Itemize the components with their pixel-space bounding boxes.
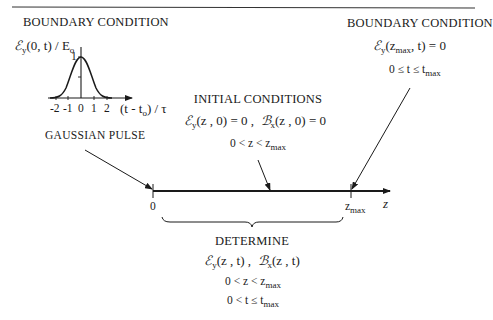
- y-tick-1: 1: [71, 50, 77, 62]
- gaussian-ylabel: ℰy(0, t) / Eo: [14, 38, 74, 54]
- determine-range-z: 0 < z < zmax: [225, 275, 281, 287]
- right-boundary-range: 0 ≤ t ≤ tmax: [389, 63, 441, 75]
- x-tick-2: 2: [104, 102, 110, 114]
- right-boundary-equation: ℰy(zmax, t) = 0: [373, 38, 446, 54]
- x-tick-0: 0: [78, 102, 84, 114]
- determine-title: DETERMINE: [215, 234, 289, 249]
- determine-equation: ℰy(z , t) , ℬx(z , t): [204, 253, 300, 269]
- right-boundary-arrow: [352, 88, 410, 189]
- right-boundary-title: BOUNDARY CONDITION: [347, 16, 493, 31]
- initial-conditions-arrow: [258, 160, 270, 190]
- initial-conditions-equation: ℰy(z , 0) = 0 , ℬx(z , 0) = 0: [184, 113, 326, 129]
- gaussian-pulse-label: GAUSSIAN PULSE: [45, 129, 145, 141]
- top-rule: [12, 7, 475, 8]
- initial-conditions-range: 0 < z < zmax: [230, 137, 286, 149]
- x-tick-neg2: -2: [50, 102, 60, 114]
- gaussian-pulse-arrow: [85, 150, 152, 189]
- axis-z-label: z: [383, 196, 388, 212]
- axis-zmax-label: zmax: [345, 200, 366, 212]
- x-tick-neg1: -1: [63, 102, 73, 114]
- initial-conditions-title: INITIAL CONDITIONS: [194, 92, 322, 107]
- determine-range-t: 0 < t ≤ tmax: [227, 294, 279, 306]
- gaussian-xlabel: (t - to) / τ: [120, 101, 167, 117]
- axis-origin-label: 0: [150, 200, 156, 212]
- determine-brace: [162, 217, 343, 227]
- left-boundary-title: BOUNDARY CONDITION: [23, 15, 169, 30]
- script-e-symbol: ℰ: [14, 38, 22, 53]
- x-tick-1: 1: [91, 102, 97, 114]
- gaussian-graph: [48, 47, 132, 100]
